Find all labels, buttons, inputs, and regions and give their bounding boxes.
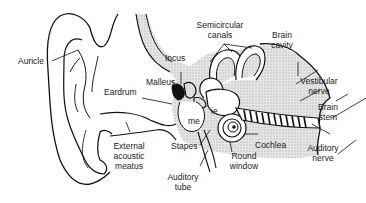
auricle-antihelix xyxy=(78,50,90,118)
label-auditory-nerve: Auditory nerve xyxy=(298,143,348,163)
label-vestibular-nerve-line1: Vestibular xyxy=(292,76,346,86)
label-external-acoustic-meatus: External acoustic meatus xyxy=(104,141,154,171)
label-vestibular-nerve-line2: nerve xyxy=(292,86,346,96)
label-incus: Incus xyxy=(165,53,185,63)
label-brain-stem: Brain stem xyxy=(310,102,346,122)
ear-canal-lower xyxy=(110,130,176,140)
label-auricle: Auricle xyxy=(18,56,44,66)
label-brain-stem-line2: stem xyxy=(310,112,346,122)
auricle-curl xyxy=(70,58,80,72)
label-auditory-tube: Auditory tube xyxy=(160,172,206,192)
label-stapes: Stapes xyxy=(171,141,197,151)
label-auditory-nerve-line1: Auditory xyxy=(298,143,348,153)
label-external-line2: acoustic xyxy=(104,151,154,161)
label-inner-ear: ie xyxy=(211,106,218,116)
label-semicircular-canals-line2: canals xyxy=(190,30,250,40)
label-cochlea: Cochlea xyxy=(255,140,286,150)
ear-canal-upper xyxy=(100,112,176,125)
label-auditory-tube-line1: Auditory xyxy=(160,172,206,182)
label-malleus: Malleus xyxy=(146,77,175,87)
label-external-line1: External xyxy=(104,141,154,151)
label-brain-cavity-line2: cavity xyxy=(262,40,302,50)
label-auditory-tube-line2: tube xyxy=(160,182,206,192)
label-brain-stem-line1: Brain xyxy=(310,102,346,112)
label-middle-ear: me xyxy=(188,116,200,126)
label-brain-cavity: Brain cavity xyxy=(262,30,302,50)
label-external-line3: meatus xyxy=(104,161,154,171)
label-round-window-line2: window xyxy=(222,161,266,171)
label-semicircular-canals: Semicircular canals xyxy=(190,20,250,40)
label-round-window-line1: Round xyxy=(222,151,266,161)
label-brain-cavity-line1: Brain xyxy=(262,30,302,40)
label-round-window: Round window xyxy=(222,151,266,171)
label-eardrum: Eardrum xyxy=(104,87,137,97)
label-auditory-nerve-line2: nerve xyxy=(298,153,348,163)
label-semicircular-canals-line1: Semicircular xyxy=(190,20,250,30)
label-vestibular-nerve: Vestibular nerve xyxy=(292,76,346,96)
